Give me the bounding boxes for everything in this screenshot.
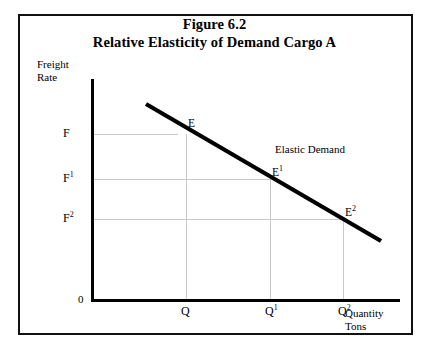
point-E2-base: E [345,206,352,218]
x-tick-label-Q: Q [181,304,190,319]
y-tick-F1-superscript: 1 [70,170,74,179]
y-axis-title-line-2: Rate [37,71,69,84]
x-tick-Q1-superscript: 1 [274,303,278,312]
x-axis-line [91,299,400,302]
point-E1-superscript: 1 [279,164,283,173]
y-axis-line [91,79,94,302]
point-E2-superscript: 2 [352,204,356,213]
y-axis-title: Freight Rate [37,58,69,84]
y-tick-label-F2: F2 [63,211,74,226]
x-tick-label-Q2: Q2 [338,304,351,319]
point-E1-base: E [272,166,279,178]
elastic-demand-annotation: Elastic Demand [275,143,345,155]
gridline-horizontal-F [93,134,178,135]
figure-screenshot: Figure 6.2 Relative Elasticity of Demand… [0,0,429,352]
x-axis-title-line-2: Tons [345,320,384,333]
x-tick-Q2-base: Q [338,304,347,318]
y-tick-label-F1: F1 [63,171,74,186]
x-tick-Q1-base: Q [265,304,274,318]
point-label-E1: E1 [272,166,283,178]
point-label-E: E [188,117,195,129]
gridline-vertical-Q [186,134,187,300]
point-label-E2: E2 [345,206,356,218]
y-axis-title-line-1: Freight [37,58,69,71]
x-tick-label-Q1: Q1 [265,304,278,319]
y-tick-label-F: F [63,126,70,141]
y-tick-F2-base: F [63,211,70,225]
gridline-vertical-Q1 [270,179,271,300]
gridline-vertical-Q2 [343,219,344,300]
gridline-horizontal-F2 [93,219,345,220]
origin-label: 0 [78,293,84,305]
x-tick-Q-base: Q [181,304,190,318]
y-tick-F-base: F [63,126,70,140]
gridline-horizontal-F1 [93,179,272,180]
x-axis-title-line-1: Quantity [345,307,384,320]
x-tick-Q2-superscript: 2 [347,303,351,312]
point-E-base: E [188,117,195,129]
x-axis-title: Quantity Tons [345,307,384,333]
y-tick-F2-superscript: 2 [70,210,74,219]
y-tick-F1-base: F [63,171,70,185]
